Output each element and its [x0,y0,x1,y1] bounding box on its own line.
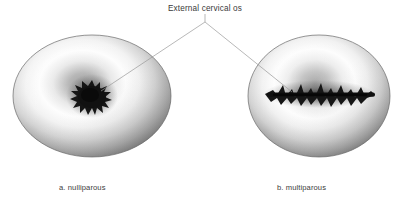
caption-a-line1: a. nulliparous [59,183,137,193]
caption-multiparous: b. multiparous (i.e. a woman who has had… [277,163,355,208]
cervix-diagram-multiparous [247,34,392,159]
external-cervical-os-label: External cervical os [0,4,410,13]
cervix-os-figure: External cervical os [0,0,410,208]
cervix-diagram-nulliparous [12,34,173,159]
caption-b-line1: b. multiparous [277,183,355,193]
nulliparous-illustration [12,34,173,159]
caption-nulliparous: a. nulliparous (i.e. a woman who has not… [59,163,137,208]
multiparous-illustration [247,34,392,159]
